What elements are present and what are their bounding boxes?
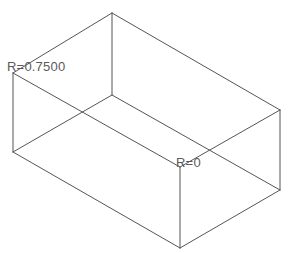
cad-drawing-canvas[interactable]: R=0.7500 R=0 <box>0 0 294 253</box>
edge-top-front-left <box>13 152 180 248</box>
edge-inner-rear-left <box>13 95 112 152</box>
edge-top-back-right <box>112 13 280 110</box>
edge-inner-left-edge <box>13 73 180 167</box>
isometric-box-wireframe <box>0 0 294 253</box>
radius-annotation-top-edge: R=0.7500 <box>7 60 65 73</box>
edge-top-front-right <box>180 190 280 248</box>
radius-annotation-inner-corner: R=0 <box>176 156 201 169</box>
